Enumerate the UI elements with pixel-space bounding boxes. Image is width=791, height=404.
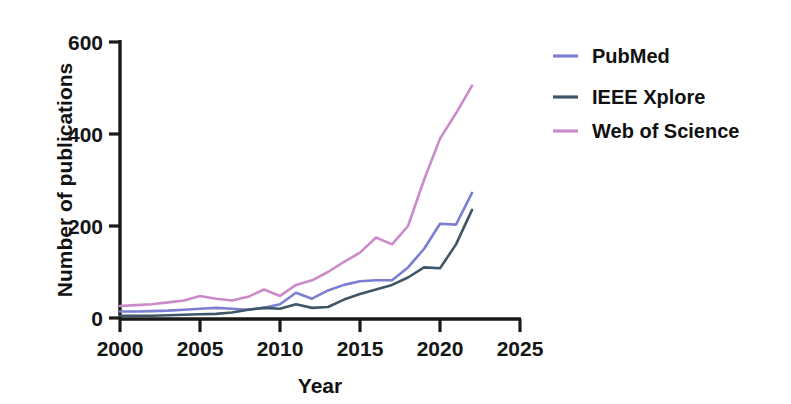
x-tick-marks: [120, 319, 520, 332]
x-tick-label-2020: 2020: [417, 337, 464, 360]
x-tick-label-2005: 2005: [177, 337, 224, 360]
series-group: [120, 86, 472, 316]
chart-legend: PubMed IEEE Xplore Web of Science: [553, 45, 739, 142]
x-tick-label-2010: 2010: [257, 337, 304, 360]
y-tick-label-600: 600: [68, 31, 103, 54]
series-line-ieee-xplore: [120, 210, 472, 316]
legend-item-ieee-xplore[interactable]: IEEE Xplore: [553, 86, 705, 108]
series-line-web-of-science: [120, 86, 472, 306]
y-tick-label-200: 200: [68, 215, 103, 238]
legend-item-pubmed[interactable]: PubMed: [553, 45, 670, 67]
legend-item-web-of-science[interactable]: Web of Science: [553, 120, 739, 142]
publications-line-chart: Number of publications 600 400 200 0: [0, 0, 791, 404]
legend-label-pubmed: PubMed: [592, 45, 670, 67]
chart-figure: Number of publications 600 400 200 0: [0, 0, 791, 404]
y-tick-label-400: 400: [68, 123, 103, 146]
legend-label-web-of-science: Web of Science: [592, 120, 739, 142]
x-tick-label-2000: 2000: [97, 337, 144, 360]
x-tick-label-2015: 2015: [337, 337, 384, 360]
x-axis-title: Year: [298, 374, 342, 397]
x-tick-label-2025: 2025: [497, 337, 544, 360]
y-tick-label-0: 0: [91, 307, 103, 330]
legend-label-ieee-xplore: IEEE Xplore: [592, 86, 705, 108]
x-tick-labels: 2000 2005 2010 2015 2020 2025: [97, 337, 544, 360]
y-axis-title: Number of publications: [53, 63, 76, 298]
series-line-pubmed: [120, 193, 472, 312]
